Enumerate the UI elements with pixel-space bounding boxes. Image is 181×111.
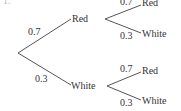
- branch-white-red: [107, 72, 141, 86]
- prob-white-red: 0.7: [120, 64, 133, 74]
- branch-red: [18, 19, 71, 53]
- prob-white-white: 0.3: [120, 98, 133, 108]
- prob-red-red: 0.7: [120, 0, 133, 7]
- prob-red-white: 0.3: [120, 31, 133, 41]
- prob-white: 0.3: [35, 74, 48, 84]
- node-white-white: White: [142, 96, 166, 106]
- prob-red: 0.7: [28, 27, 41, 37]
- node-white: White: [71, 81, 95, 91]
- node-red: Red: [72, 14, 88, 24]
- branch-red-red: [105, 5, 141, 19]
- node-white-red: Red: [142, 66, 158, 76]
- node-red-red: Red: [142, 0, 158, 8]
- node-red-white: White: [142, 29, 166, 39]
